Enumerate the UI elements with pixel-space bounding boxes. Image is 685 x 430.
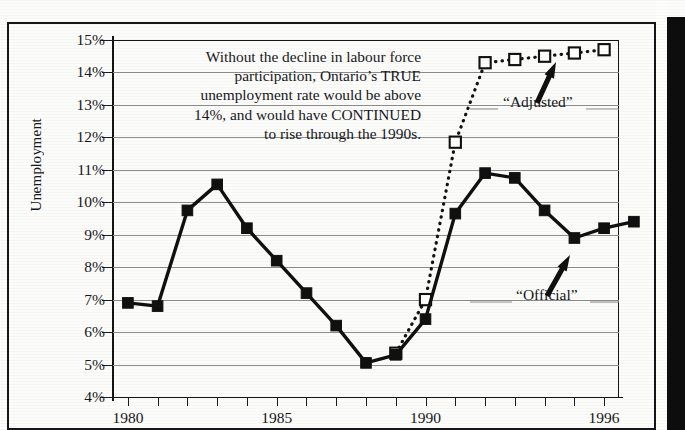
- scan-noise-overlay: [0, 0, 685, 430]
- chart-page: Unemployment 15%14%13%12%11%10%9%8%7%6%5…: [0, 0, 685, 430]
